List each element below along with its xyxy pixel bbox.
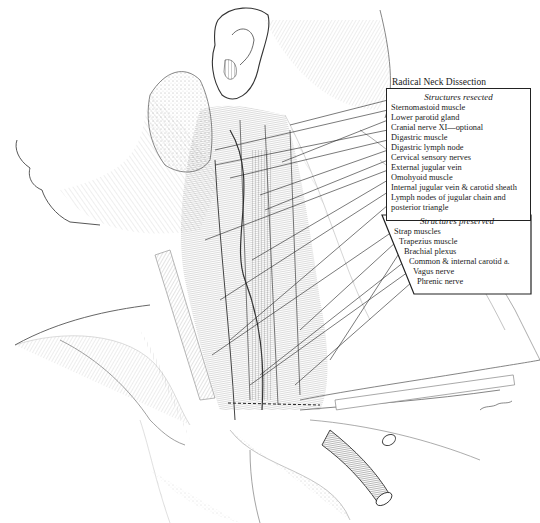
preserved-heading: Structures preserved bbox=[420, 216, 494, 226]
label-lower-parotid-gland: Lower parotid gland bbox=[391, 113, 459, 123]
resected-heading: Structures resected bbox=[387, 92, 530, 103]
label-phrenic-nerve: Phrenic nerve bbox=[417, 277, 463, 287]
label-posterior-triangle: posterior triangle bbox=[391, 203, 448, 213]
artery-cross-section bbox=[380, 432, 397, 448]
diagram-title: Radical Neck Dissection bbox=[392, 77, 486, 87]
label-brachial-plexus: Brachial plexus bbox=[404, 247, 456, 257]
label-omohyoid-muscle: Omohyoid muscle bbox=[391, 173, 453, 183]
label-digastric-muscle: Digastric muscle bbox=[391, 133, 448, 143]
label-strap-muscles: Strap muscles bbox=[394, 227, 441, 237]
label-cranial-nerve-xi: Cranial nerve XI—optional bbox=[391, 123, 483, 133]
label-digastric-lymph-node: Digastric lymph node bbox=[391, 143, 464, 153]
label-cervical-sensory-nerves: Cervical sensory nerves bbox=[391, 153, 471, 163]
label-lymph-nodes-jugular-chain: Lymph nodes of jugular chain and bbox=[391, 193, 506, 203]
subclavian-vein bbox=[322, 430, 390, 503]
label-common-internal-carotid: Common & internal carotid a. bbox=[409, 257, 510, 267]
label-vagus-nerve: Vagus nerve bbox=[413, 267, 454, 277]
label-trapezius-muscle: Trapezius muscle bbox=[399, 237, 458, 247]
label-internal-jugular-vein-carotid-sheath: Internal jugular vein & carotid sheath bbox=[391, 183, 517, 193]
label-sternomastoid-muscle: Sternomastoid muscle bbox=[391, 103, 465, 113]
label-external-jugular-vein: External jugular vein bbox=[391, 163, 462, 173]
artist-signature bbox=[480, 401, 512, 410]
ear bbox=[212, 8, 269, 99]
